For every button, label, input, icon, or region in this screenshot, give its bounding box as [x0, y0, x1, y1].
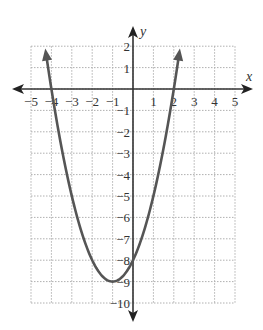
y-tick-label: −7	[116, 232, 130, 247]
x-tick-label: 1	[150, 94, 157, 109]
x-axis-label: x	[245, 69, 253, 84]
x-tick-label: 3	[191, 94, 198, 109]
y-axis-label: y	[138, 24, 147, 39]
curve-right-arrow-icon	[173, 49, 183, 62]
x-tick-label: 4	[211, 94, 218, 109]
x-tick-label: −2	[85, 94, 99, 109]
y-tick-label: −6	[116, 210, 130, 225]
y-tick-label: 1	[124, 61, 131, 76]
y-tick-label: −8	[116, 253, 130, 268]
curve-left-arrow-icon	[42, 49, 52, 62]
y-tick-label: −4	[116, 168, 130, 183]
y-tick-label: −3	[116, 146, 130, 161]
x-tick-label: −5	[24, 94, 38, 109]
y-tick-label: 2	[124, 39, 131, 54]
y-tick-label: −2	[116, 125, 130, 140]
x-tick-label: −3	[65, 94, 79, 109]
y-tick-label: −1	[116, 103, 130, 118]
y-tick-label: −10	[110, 296, 130, 311]
x-tick-label: 5	[232, 94, 239, 109]
y-tick-label: −5	[116, 189, 130, 204]
parabola-graph: x y −5−4−3−2−11234521−1−2−3−4−5−6−7−8−9−…	[0, 0, 263, 330]
